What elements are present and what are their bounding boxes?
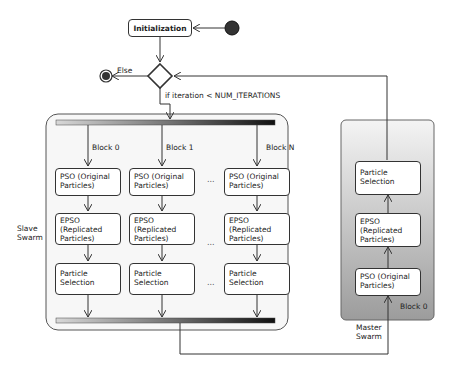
node-line: EPSO	[229, 216, 285, 225]
block-n-label: Block N	[266, 143, 294, 152]
node-line: PSO (Original	[229, 172, 285, 181]
else-label: Else	[117, 66, 132, 75]
master-block-label: Block 0	[400, 302, 427, 311]
node-line: Particle	[229, 269, 285, 278]
node-line: Selection	[134, 278, 190, 287]
initialization-node: Initialization	[128, 19, 192, 37]
node-line: Selection	[229, 278, 285, 287]
node-line: Particle	[134, 269, 190, 278]
node-line: Particles)	[134, 181, 190, 190]
ellipsis: ...	[207, 175, 215, 184]
fork-bar	[56, 120, 275, 125]
ellipsis: ...	[207, 238, 215, 247]
block-0-pso-node: PSO (Original Particles)	[55, 168, 121, 196]
master-epso-node: EPSO (Replicated Particles)	[355, 213, 421, 247]
master-selection-node: Particle Selection	[355, 161, 421, 195]
master-swarm-label-1: Master	[356, 323, 382, 332]
block-0-epso-node: EPSO (Replicated Particles)	[55, 213, 121, 245]
node-line: Particles)	[229, 234, 285, 243]
node-line: (Replicated	[60, 225, 116, 234]
initialization-label: Initialization	[133, 24, 186, 33]
node-line: Selection	[60, 278, 116, 287]
node-line: Particles)	[60, 181, 116, 190]
initial-node	[225, 21, 239, 35]
decision-node	[148, 64, 172, 88]
node-line: Particles)	[360, 281, 416, 290]
node-line: PSO (Original	[360, 272, 416, 281]
node-line: Particle	[360, 168, 416, 177]
node-line: EPSO	[360, 217, 416, 226]
block-0-selection-node: Particle Selection	[55, 263, 121, 295]
node-line: Particles)	[134, 234, 190, 243]
master-pso-node: PSO (Original Particles)	[355, 268, 421, 296]
block-n-epso-node: EPSO (Replicated Particles)	[224, 213, 290, 245]
block-1-epso-node: EPSO (Replicated Particles)	[129, 213, 195, 245]
block-0-label: Block 0	[92, 143, 119, 152]
ellipsis: ...	[207, 278, 215, 287]
node-line: Particles)	[229, 181, 285, 190]
node-line: EPSO	[60, 216, 116, 225]
node-line: (Replicated	[229, 225, 285, 234]
block-n-selection-node: Particle Selection	[224, 263, 290, 295]
node-line: Selection	[360, 177, 416, 186]
slave-swarm-label-2: Swarm	[17, 233, 43, 242]
block-1-pso-node: PSO (Original Particles)	[129, 168, 195, 196]
master-swarm-label-2: Swarm	[356, 332, 382, 341]
block-1-label: Block 1	[166, 143, 193, 152]
node-line: (Replicated	[360, 226, 416, 235]
join-bar	[56, 318, 275, 323]
node-line: Particle	[60, 269, 116, 278]
slave-swarm-label-1: Slave	[17, 224, 38, 233]
condition-label: if iteration < NUM_ITERATIONS	[165, 91, 280, 100]
block-1-selection-node: Particle Selection	[129, 263, 195, 295]
node-line: (Replicated	[134, 225, 190, 234]
node-line: PSO (Original	[134, 172, 190, 181]
node-line: EPSO	[134, 216, 190, 225]
node-line: Particles)	[60, 234, 116, 243]
block-n-pso-node: PSO (Original Particles)	[224, 168, 290, 196]
node-line: PSO (Original	[60, 172, 116, 181]
node-line: Particles)	[360, 235, 416, 244]
